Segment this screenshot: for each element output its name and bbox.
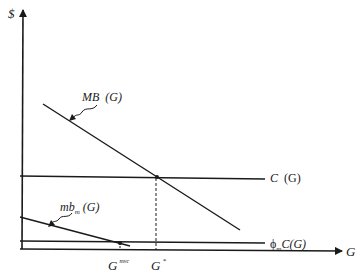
economics-diagram: $ G C (G) MB (G) mbm(G) ϕmC(G) Gmvc G*	[0, 0, 362, 280]
scaled-cost-line-label: ϕmC(G)	[270, 237, 306, 253]
g-mvc-label: Gmvc	[108, 258, 129, 273]
cost-line-label: C (G)	[270, 171, 301, 185]
marginal-benefit-arrowhead-icon	[69, 114, 76, 121]
g-star-label: G*	[151, 257, 166, 273]
x-axis-label: G	[346, 244, 356, 259]
scaled-cost-line	[20, 241, 265, 243]
y-axis-label: $	[8, 6, 15, 21]
individual-marginal-benefit-pointer-icon	[51, 213, 72, 224]
y-axis	[22, 10, 23, 249]
marginal-benefit-pointer-icon	[73, 105, 97, 118]
marginal-benefit-label: MB (G)	[81, 90, 122, 104]
individual-marginal-benefit-label: mbm(G)	[60, 200, 99, 216]
cost-line	[20, 176, 265, 179]
